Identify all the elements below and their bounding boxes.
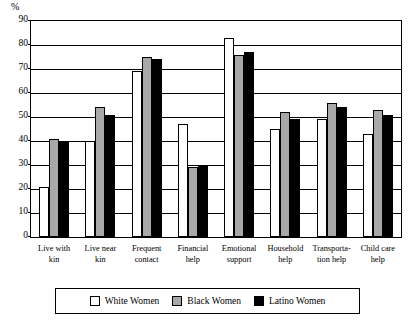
legend-label: Black Women [187, 296, 241, 306]
bar-group [170, 21, 216, 237]
y-tick-label: 50 [2, 111, 28, 121]
bar-group [355, 21, 401, 237]
bar-groups [31, 21, 401, 237]
y-tick-label: 80 [2, 39, 28, 49]
y-tick-label: 10 [2, 207, 28, 217]
y-tick-label: 30 [2, 159, 28, 169]
bar [337, 107, 347, 237]
x-axis-label: Live withkin [31, 243, 77, 265]
bar [178, 124, 188, 237]
bar [327, 103, 337, 237]
legend-swatch [172, 296, 182, 306]
bar [152, 59, 162, 237]
y-axis-unit-label: % [11, 2, 19, 12]
x-axis-label: Householdhelp [262, 243, 308, 265]
bar [105, 115, 115, 237]
legend-swatch [254, 296, 264, 306]
bar [49, 139, 59, 237]
y-tick-label: 20 [2, 183, 28, 193]
y-tick-label: 40 [2, 135, 28, 145]
x-axis-label: Live nearkin [77, 243, 123, 265]
bar [85, 141, 95, 237]
bar [198, 165, 208, 237]
chart-legend: White WomenBlack WomenLatino Women [55, 288, 360, 314]
bar [280, 112, 290, 237]
x-axis-label: Child carehelp [355, 243, 401, 265]
x-axis-label: Financialhelp [170, 243, 216, 265]
bar [363, 134, 373, 237]
x-axis-label: Emotionalsupport [216, 243, 262, 265]
bar-group [77, 21, 123, 237]
bar [373, 110, 383, 237]
bar [95, 107, 105, 237]
bar [59, 141, 69, 237]
y-axis-ticks: 9080706050403020100 [0, 20, 28, 238]
bar [290, 119, 300, 237]
bar-group [216, 21, 262, 237]
legend-item: Black Women [172, 296, 241, 306]
legend-item: Latino Women [254, 296, 325, 306]
y-tick-label: 70 [2, 63, 28, 73]
bar-group [124, 21, 170, 237]
y-tick-label: 0 [2, 231, 28, 241]
bar-chart: % 9080706050403020100 Live withkinLive n… [0, 0, 412, 324]
bar [188, 167, 198, 237]
bar [224, 38, 234, 237]
legend-label: White Women [105, 296, 160, 306]
bar [132, 71, 142, 237]
bar [142, 57, 152, 237]
y-tick-label: 90 [2, 15, 28, 25]
bar-group [31, 21, 77, 237]
bar [244, 52, 254, 237]
x-axis-label: Frequentcontact [124, 243, 170, 265]
bar [383, 115, 393, 237]
bar [234, 55, 244, 237]
x-axis-label: Transporta-tion help [309, 243, 355, 265]
bar [270, 129, 280, 237]
bar [39, 187, 49, 237]
legend-swatch [90, 296, 100, 306]
legend-item: White Women [90, 296, 160, 306]
legend-label: Latino Women [269, 296, 325, 306]
bar-group [262, 21, 308, 237]
y-tick-label: 60 [2, 87, 28, 97]
bar [317, 119, 327, 237]
x-axis-labels: Live withkinLive nearkinFrequentcontactF… [31, 243, 401, 277]
bar-group [309, 21, 355, 237]
